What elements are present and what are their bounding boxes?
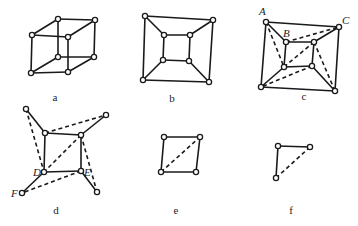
- solid-edge: [31, 57, 58, 73]
- vertex-node: [263, 19, 268, 24]
- solid-edge: [161, 137, 164, 172]
- solid-edge: [145, 16, 164, 35]
- solid-edge: [190, 20, 213, 35]
- graph-reduction-diagram: abACBcDEFdef: [0, 0, 358, 226]
- vertex-node: [307, 144, 312, 149]
- solid-edge: [196, 137, 200, 172]
- solid-edge: [261, 87, 335, 91]
- dashed-edge: [161, 137, 200, 172]
- vertex-node: [210, 17, 215, 22]
- vertex-label-C: C: [342, 14, 350, 26]
- solid-edge: [312, 42, 314, 66]
- vertex-node: [65, 34, 70, 39]
- vertex-node: [142, 13, 147, 18]
- panel-caption-f: f: [289, 204, 293, 216]
- dashed-edge: [266, 22, 284, 67]
- vertex-node: [187, 32, 192, 37]
- solid-edge: [284, 66, 312, 67]
- solid-edge: [26, 109, 45, 133]
- vertex-node: [29, 32, 34, 37]
- vertex-label-E: E: [83, 166, 91, 178]
- panel-e: e: [158, 134, 202, 216]
- solid-edge: [189, 35, 190, 61]
- panel-f: f: [273, 143, 312, 216]
- dashed-edge: [22, 171, 81, 193]
- dashed-edge: [284, 42, 314, 67]
- solid-edge: [58, 19, 95, 20]
- vertex-node: [258, 84, 263, 89]
- vertex-node: [41, 169, 46, 174]
- solid-edge: [31, 72, 68, 73]
- solid-edge: [45, 133, 81, 135]
- solid-edge: [68, 20, 95, 37]
- vertex-node: [186, 58, 191, 63]
- solid-edge: [278, 146, 310, 147]
- vertex-label-A: A: [258, 5, 266, 17]
- solid-edge: [68, 57, 94, 72]
- vertex-node: [311, 39, 316, 44]
- vertex-label-B: B: [283, 27, 290, 39]
- solid-edge: [163, 35, 164, 60]
- vertex-node: [78, 168, 83, 173]
- vertex-node: [103, 112, 108, 117]
- dashed-edge: [44, 135, 81, 172]
- vertex-node: [55, 16, 60, 21]
- vertex-node: [160, 57, 165, 62]
- vertex-node: [78, 132, 83, 137]
- solid-edge: [143, 60, 163, 80]
- panel-a: a: [28, 16, 97, 103]
- vertex-node: [28, 70, 33, 75]
- panel-caption-a: a: [53, 91, 58, 103]
- panel-caption-d: d: [53, 204, 59, 216]
- panel-c: ACBc: [258, 5, 350, 102]
- panel-b: b: [140, 13, 215, 104]
- dashed-edge: [314, 42, 335, 91]
- vertex-label-D: D: [32, 166, 41, 178]
- solid-edge: [32, 35, 68, 37]
- solid-edge: [312, 66, 335, 91]
- dashed-edge: [26, 109, 44, 172]
- vertex-node: [19, 190, 24, 195]
- vertex-node: [55, 54, 60, 59]
- solid-edge: [44, 171, 81, 172]
- solid-edge: [143, 80, 209, 82]
- vertex-node: [197, 134, 202, 139]
- panel-caption-c: c: [302, 90, 307, 102]
- vertex-node: [281, 64, 286, 69]
- solid-edge: [189, 61, 209, 82]
- solid-edge: [276, 146, 278, 178]
- dashed-edge: [45, 115, 106, 133]
- vertex-node: [336, 24, 341, 29]
- vertex-node: [140, 77, 145, 82]
- vertex-node: [273, 175, 278, 180]
- vertex-node: [161, 134, 166, 139]
- vertex-node: [65, 69, 70, 74]
- dashed-edge: [261, 66, 312, 87]
- vertex-node: [94, 189, 99, 194]
- vertex-node: [275, 143, 280, 148]
- dashed-edge: [276, 147, 310, 178]
- solid-edge: [335, 27, 339, 91]
- solid-edge: [261, 67, 284, 87]
- solid-edge: [209, 20, 213, 82]
- solid-edge: [143, 16, 145, 80]
- vertex-node: [309, 63, 314, 68]
- solid-edge: [94, 20, 95, 57]
- vertex-node: [92, 17, 97, 22]
- solid-edge: [284, 42, 286, 67]
- dashed-edge: [81, 135, 97, 192]
- solid-edge: [32, 19, 58, 35]
- panel-caption-e: e: [174, 204, 179, 216]
- solid-edge: [31, 35, 32, 73]
- vertex-node: [158, 169, 163, 174]
- vertex-node: [91, 54, 96, 59]
- vertex-node: [193, 169, 198, 174]
- panel-d: DEFd: [10, 106, 109, 216]
- solid-edge: [261, 22, 266, 87]
- vertex-node: [283, 39, 288, 44]
- solid-edge: [163, 60, 189, 61]
- vertex-node: [42, 130, 47, 135]
- solid-edge: [44, 133, 45, 172]
- solid-edge: [314, 27, 339, 42]
- vertex-node: [23, 106, 28, 111]
